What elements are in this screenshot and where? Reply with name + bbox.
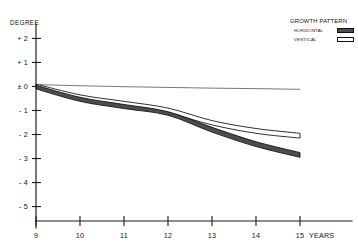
data-series-group — [36, 84, 300, 157]
chart-container: DEGREE YEARS + 2+ 1± 0- 1- 2- 3- 4- 5 91… — [0, 0, 358, 247]
legend-item-vertical: VERTICAL — [290, 37, 354, 42]
series-reference-line — [36, 85, 300, 90]
legend-label-vertical: VERTICAL — [294, 37, 317, 42]
y-tick-label--3: - 3 — [19, 154, 28, 163]
x-tick-label-13: 13 — [208, 231, 216, 240]
series-band-horizontal — [36, 85, 300, 157]
y-axis-title: DEGREE — [10, 19, 39, 26]
x-tick-label-12: 12 — [164, 231, 172, 240]
x-tick-labels: 9101112131415 — [34, 231, 304, 240]
y-tick-label--5: - 5 — [19, 202, 28, 211]
legend-swatch-horizontal — [337, 28, 354, 33]
y-tick-label-0: ± 0 — [17, 82, 28, 91]
y-tick-labels: + 2+ 1± 0- 1- 2- 3- 4- 5 — [17, 34, 28, 211]
chart-legend: GROWTH PATTERN HORIZONTAL VERTICAL — [290, 18, 354, 42]
x-tick-label-11: 11 — [120, 231, 128, 240]
y-tick-label-2: + 2 — [17, 34, 28, 43]
x-tick-label-9: 9 — [34, 231, 38, 240]
legend-swatch-vertical — [337, 37, 354, 42]
x-tick-label-10: 10 — [76, 231, 84, 240]
legend-label-horizontal: HORIZONTAL — [294, 28, 323, 33]
y-tick-label--2: - 2 — [19, 130, 28, 139]
y-tick-label--1: - 1 — [19, 106, 28, 115]
x-tick-label-14: 14 — [252, 231, 260, 240]
x-tick-label-15: 15 — [296, 231, 304, 240]
x-axis-title: YEARS — [309, 231, 334, 240]
legend-item-horizontal: HORIZONTAL — [290, 28, 354, 33]
y-tick-label--4: - 4 — [19, 178, 28, 187]
y-tick-label-1: + 1 — [17, 58, 28, 67]
legend-title: GROWTH PATTERN — [290, 18, 354, 24]
series-band-vertical — [36, 84, 300, 138]
